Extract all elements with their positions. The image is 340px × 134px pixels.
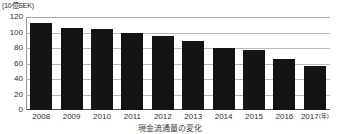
bar-slot <box>269 17 299 110</box>
y-tick-label: 80 <box>14 44 23 52</box>
chart-caption: 現金流通量の変化 <box>0 124 340 134</box>
x-tick-label: 2014 <box>208 112 238 121</box>
x-tick-label-text: 2012 <box>154 112 172 121</box>
x-tick-label: 2016 <box>269 112 299 121</box>
y-tick-label: 20 <box>14 91 23 99</box>
bar <box>273 59 295 110</box>
bar <box>243 50 265 110</box>
bar-slot <box>239 17 269 110</box>
y-tick-label: 60 <box>14 60 23 68</box>
x-tick-label-text: 2014 <box>215 112 233 121</box>
bar <box>182 41 204 110</box>
x-tick-label-text: 2008 <box>32 112 50 121</box>
x-tick-label: 2009 <box>56 112 86 121</box>
plot-area <box>26 17 330 110</box>
bar <box>304 66 326 110</box>
x-axis-unit-note: (年) <box>319 113 329 119</box>
x-tick-label: 2012 <box>148 112 178 121</box>
y-axis-unit-label: (10億SEK) <box>2 0 34 10</box>
x-tick-label: 2015 <box>239 112 269 121</box>
x-tick-label: 2011 <box>117 112 147 121</box>
bar-slot <box>300 17 330 110</box>
x-tick-label-text: 2015 <box>245 112 263 121</box>
x-axis-tick-labels: 2008200920102011201220132014201520162017… <box>26 112 330 123</box>
bar-slot <box>26 17 56 110</box>
x-tick-label: 2008 <box>26 112 56 121</box>
bar-series <box>26 17 330 110</box>
bar <box>213 48 235 110</box>
x-tick-label: 2017(年) <box>300 112 330 121</box>
x-tick-label-text: 2016 <box>275 112 293 121</box>
x-tick-label: 2013 <box>178 112 208 121</box>
bar <box>61 28 83 110</box>
x-tick-label: 2010 <box>87 112 117 121</box>
bar-slot <box>87 17 117 110</box>
bar <box>91 29 113 110</box>
bar-chart: (10億SEK) 120100806040200 200820092010201… <box>0 0 340 134</box>
bar-slot <box>56 17 86 110</box>
bar-slot <box>148 17 178 110</box>
y-tick-label: 0 <box>19 106 23 114</box>
x-tick-label-text: 2009 <box>63 112 81 121</box>
x-tick-label-text: 2011 <box>124 112 141 121</box>
x-tick-label-text: 2010 <box>93 112 111 121</box>
x-tick-label-text: 2013 <box>184 112 202 121</box>
y-tick-label: 120 <box>10 13 23 21</box>
bar <box>121 33 143 110</box>
bar-slot <box>208 17 238 110</box>
y-tick-label: 100 <box>10 29 23 37</box>
y-tick-label: 40 <box>14 75 23 83</box>
bar-slot <box>117 17 147 110</box>
bar <box>30 23 52 110</box>
bar <box>152 36 174 110</box>
bar-slot <box>178 17 208 110</box>
x-tick-label-text: 2017 <box>301 112 319 121</box>
